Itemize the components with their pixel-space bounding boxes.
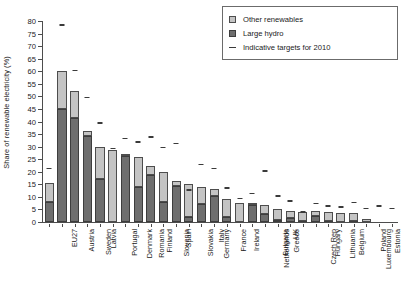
bar-segment-other-renewables[interactable] <box>248 203 257 205</box>
bar-segment-other-renewables[interactable] <box>95 147 104 180</box>
bar-slot[interactable] <box>56 21 69 222</box>
bar-slot[interactable] <box>43 21 56 222</box>
bar-segment-other-renewables[interactable] <box>273 209 282 220</box>
y-axis-tick <box>38 134 42 135</box>
bar-segment-large-hydro[interactable] <box>286 218 295 222</box>
y-axis-tick-label: 80 <box>28 17 36 26</box>
x-axis-tick <box>49 224 50 227</box>
bar-segment-other-renewables[interactable] <box>146 166 155 175</box>
stacked-bar[interactable] <box>146 21 155 222</box>
x-axis-tick-label: Latvia <box>110 229 119 248</box>
bar-segment-other-renewables[interactable] <box>324 212 333 221</box>
stacked-bar[interactable] <box>184 21 193 222</box>
bar-segment-other-renewables[interactable] <box>311 211 320 216</box>
bar-segment-other-renewables[interactable] <box>349 213 358 221</box>
bar-slot[interactable] <box>157 21 170 222</box>
bar-segment-other-renewables[interactable] <box>45 183 54 202</box>
stacked-bar[interactable] <box>70 21 79 222</box>
bar-segment-other-renewables[interactable] <box>159 172 168 203</box>
bar-segment-other-renewables[interactable] <box>57 71 66 109</box>
bar-segment-large-hydro[interactable] <box>260 214 269 222</box>
bar-segment-large-hydro[interactable] <box>45 202 54 222</box>
bar-segment-other-renewables[interactable] <box>83 131 92 136</box>
bar-segment-other-renewables[interactable] <box>286 211 295 219</box>
bar-segment-other-renewables[interactable] <box>197 187 206 204</box>
target-marker <box>288 200 293 202</box>
stacked-bar[interactable] <box>83 21 92 222</box>
target-marker <box>186 189 191 191</box>
bar-segment-large-hydro[interactable] <box>184 217 193 222</box>
y-axis-tick-label: 70 <box>28 42 36 51</box>
bar-segment-large-hydro[interactable] <box>146 175 155 222</box>
bar-segment-other-renewables[interactable] <box>222 199 231 217</box>
target-marker <box>148 136 153 138</box>
bar-slot[interactable] <box>132 21 145 222</box>
stacked-bar[interactable] <box>134 21 143 222</box>
stacked-bar[interactable] <box>172 21 181 222</box>
bar-segment-large-hydro[interactable] <box>248 205 257 222</box>
bar-segment-other-renewables[interactable] <box>134 157 143 187</box>
x-axis-tick <box>366 224 367 227</box>
bar-segment-other-renewables[interactable] <box>235 203 244 222</box>
bar-segment-large-hydro[interactable] <box>70 118 79 222</box>
bar-slot[interactable] <box>144 21 157 222</box>
bar-segment-other-renewables[interactable] <box>260 205 269 214</box>
bar-segment-large-hydro[interactable] <box>197 204 206 222</box>
bar-segment-large-hydro[interactable] <box>57 109 66 222</box>
bar-segment-large-hydro[interactable] <box>311 216 320 222</box>
bar-segment-other-renewables[interactable] <box>121 154 130 156</box>
bar-slot[interactable] <box>81 21 94 222</box>
bar-segment-large-hydro[interactable] <box>222 217 231 222</box>
bar-segment-other-renewables[interactable] <box>362 219 371 222</box>
stacked-bar[interactable] <box>197 21 206 222</box>
stacked-bar[interactable] <box>45 21 54 222</box>
y-axis-title-text: Share of renewable electricity (%) <box>2 56 11 169</box>
y-axis-tick <box>38 109 42 110</box>
legend-label-large-hydro: Large hydro <box>243 29 284 38</box>
x-axis-tick-label: Lithuania <box>348 229 357 258</box>
stacked-bar[interactable] <box>121 21 130 222</box>
bar-slot[interactable] <box>119 21 132 222</box>
x-axis-tick-label: Slovakia <box>206 229 215 256</box>
bar-slot[interactable] <box>106 21 119 222</box>
bar-segment-large-hydro[interactable] <box>172 186 181 222</box>
y-axis-tick-label: 60 <box>28 67 36 76</box>
bar-segment-other-renewables[interactable] <box>70 91 79 117</box>
target-marker <box>275 195 280 197</box>
x-axis-tick-label: Portugal <box>130 229 139 256</box>
x-axis-tick-label: France <box>240 229 249 251</box>
x-axis-tick <box>392 224 393 227</box>
y-axis-tick-label: 5 <box>32 205 36 214</box>
target-marker <box>174 143 179 145</box>
bar-segment-other-renewables[interactable] <box>210 189 219 196</box>
stacked-bar[interactable] <box>57 21 66 222</box>
target-marker <box>47 168 52 170</box>
bar-segment-other-renewables[interactable] <box>336 213 345 222</box>
bar-segment-large-hydro[interactable] <box>159 202 168 222</box>
stacked-bar[interactable] <box>159 21 168 222</box>
bar-segment-large-hydro[interactable] <box>273 220 282 222</box>
bar-segment-large-hydro[interactable] <box>134 187 143 222</box>
y-axis-tick <box>38 147 42 148</box>
bar-segment-other-renewables[interactable] <box>108 150 117 222</box>
bar-segment-other-renewables[interactable] <box>172 181 181 186</box>
bar-segment-large-hydro[interactable] <box>83 136 92 222</box>
x-axis-tick <box>113 224 114 227</box>
bar-segment-large-hydro[interactable] <box>210 196 219 222</box>
x-axis-tick <box>303 224 304 227</box>
x-axis-tick <box>341 224 342 227</box>
bar-slot[interactable] <box>170 21 183 222</box>
bar-segment-large-hydro[interactable] <box>121 156 130 222</box>
bar-slot[interactable] <box>195 21 208 222</box>
stacked-bar[interactable] <box>210 21 219 222</box>
bar-slot[interactable] <box>208 21 221 222</box>
y-axis-tick-label: 45 <box>28 104 36 113</box>
bar-segment-large-hydro[interactable] <box>95 179 104 222</box>
bar-slot[interactable] <box>68 21 81 222</box>
bar-segment-other-renewables[interactable] <box>298 212 307 221</box>
bar-slot[interactable] <box>94 21 107 222</box>
y-axis-tick-label: 15 <box>28 180 36 189</box>
target-marker <box>85 97 90 99</box>
bar-slot[interactable] <box>182 21 195 222</box>
stacked-bar[interactable] <box>108 21 117 222</box>
